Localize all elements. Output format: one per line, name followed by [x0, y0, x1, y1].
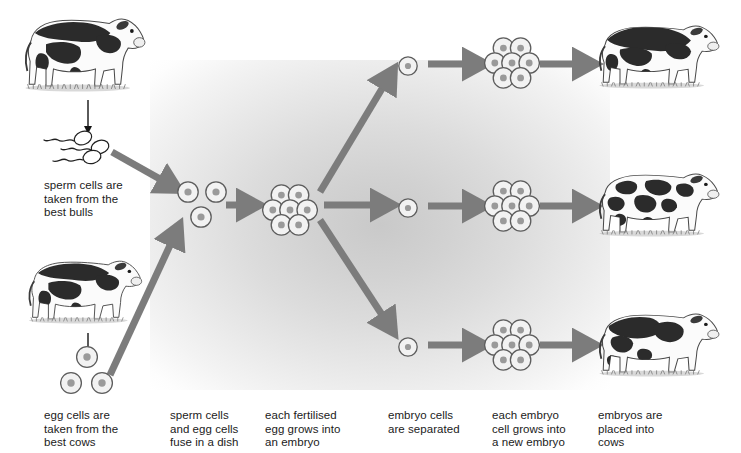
caption-implantation: embryos are placed into cows	[598, 409, 662, 450]
caption-regrowth: each embryo cell grows into a new embryo	[492, 409, 566, 450]
captions-layer: sperm cells are taken from the best bull…	[0, 0, 741, 453]
caption-sperm-source: sperm cells are taken from the best bull…	[44, 179, 123, 220]
caption-separation: embryo cells are separated	[388, 409, 460, 436]
caption-fertilised-egg: each fertilised egg grows into an embryo	[265, 409, 341, 450]
caption-fusion: sperm cells and egg cells fuse in a dish	[170, 409, 238, 450]
caption-egg-source: egg cells are taken from the best cows	[44, 409, 118, 450]
embryo-transplant-diagram: sperm cells are taken from the best bull…	[0, 0, 741, 453]
